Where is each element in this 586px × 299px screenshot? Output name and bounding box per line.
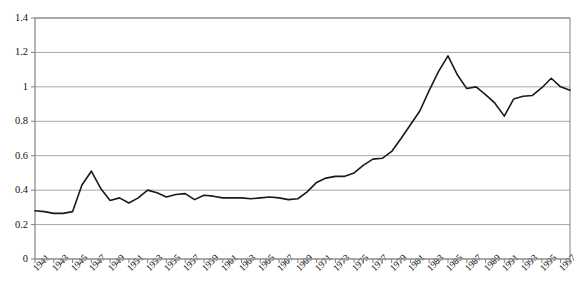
chart-figure: 00.20.40.60.811.21.4 1941194319451947194… (0, 0, 586, 299)
gridlines (35, 18, 570, 259)
plot-frame (35, 18, 570, 259)
line-chart-plot (0, 0, 586, 299)
